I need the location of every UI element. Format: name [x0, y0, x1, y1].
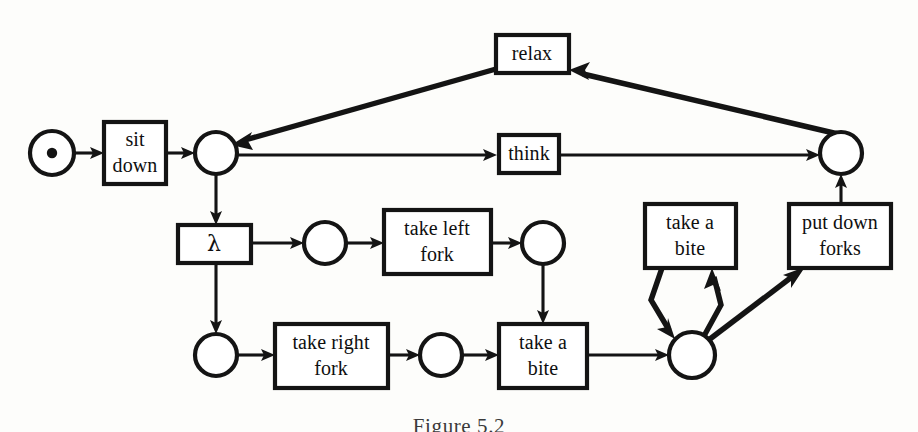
transition-take-a-bite-upper-label-line2: bite [675, 237, 705, 259]
arc-takeleft-to-leftpost [491, 237, 522, 249]
arc-seated-to-lambda [210, 174, 222, 225]
arc-leftpost-to-bite [537, 264, 549, 324]
transition-relax[interactable]: relax [496, 35, 569, 73]
transition-relax-label: relax [512, 42, 552, 64]
arc-lambda-to-leftpre [251, 237, 304, 249]
petri-net-figure: sit down relax think λ take left fork [0, 0, 918, 432]
transition-take-left-fork-label-line2: fork [420, 243, 454, 265]
transition-sit-down-label-line1: sit [125, 128, 145, 150]
arc-biteup-to-eating [651, 268, 675, 339]
arc-leftpre-to-takeleft [346, 237, 384, 249]
transition-take-a-bite-upper-label-line1: take a [666, 211, 714, 233]
transition-sit-down[interactable]: sit down [104, 122, 166, 184]
transition-take-right-fork-label-line2: fork [314, 357, 348, 379]
place-done[interactable] [820, 132, 862, 174]
transition-put-down-forks[interactable]: put down forks [789, 204, 891, 268]
arc-eating-to-biteup [704, 268, 721, 336]
transition-put-down-forks-label-line2: forks [819, 237, 861, 259]
place-right-post[interactable] [420, 334, 462, 376]
place-seated[interactable] [195, 132, 237, 174]
place-eating[interactable] [669, 332, 715, 378]
transition-take-left-fork-label-line1: take left [404, 217, 470, 239]
arc-lambda-to-rightpre [210, 263, 222, 334]
transition-lambda-label: λ [207, 231, 221, 256]
transition-take-right-fork-label-line1: take right [292, 331, 369, 354]
arc-bite-to-eating [587, 349, 669, 361]
arc-rightpost-to-bite [462, 349, 499, 361]
transition-take-right-fork[interactable]: take right fork [275, 324, 388, 388]
transition-take-left-fork[interactable]: take left fork [384, 210, 491, 274]
transition-take-a-bite-lower-label-line2: bite [528, 357, 558, 379]
petri-net-canvas: sit down relax think λ take left fork [0, 0, 918, 432]
figure-caption: Figure 5.2 [0, 414, 918, 432]
arc-rightpre-to-takeright [237, 349, 275, 361]
transition-take-a-bite-upper[interactable]: take a bite [645, 204, 736, 268]
transition-take-a-bite-lower-label-line1: take a [519, 331, 567, 353]
transition-take-a-bite-lower[interactable]: take a bite [499, 324, 587, 388]
arc-seated-to-think [237, 149, 497, 161]
arc-think-to-done [559, 149, 820, 161]
place-right-pre[interactable] [195, 334, 237, 376]
transition-put-down-forks-label-line1: put down [802, 211, 878, 234]
arc-putdown-to-done [835, 174, 847, 204]
transition-lambda[interactable]: λ [178, 225, 251, 263]
arc-takeright-to-rightpost [388, 349, 420, 361]
arc-start-to-sitdown [74, 147, 104, 159]
token-marker [47, 148, 57, 158]
place-start[interactable] [30, 131, 74, 175]
place-left-post[interactable] [522, 222, 564, 264]
transition-sit-down-label-line2: down [113, 154, 158, 176]
arc-relax-to-seated [231, 69, 496, 150]
arc-sitdown-to-seated [166, 147, 195, 159]
place-left-pre[interactable] [304, 222, 346, 264]
arc-done-to-relax [569, 62, 838, 134]
transition-think-label: think [508, 142, 550, 164]
transition-think[interactable]: think [499, 135, 559, 173]
